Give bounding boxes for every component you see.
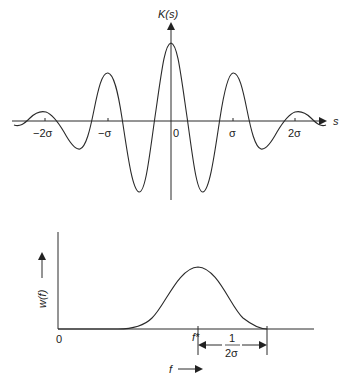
tick-label-minus-2sigma: −2σ — [33, 127, 53, 139]
peak-label: f* — [192, 331, 200, 343]
response-curve — [58, 267, 267, 329]
origin-label: 0 — [56, 333, 62, 345]
width-label-denominator: 2σ — [225, 347, 238, 359]
top-x-label: s — [333, 115, 339, 127]
top-plot: K(s) s −2σ −σ 0 σ 2σ — [12, 8, 339, 200]
tick-label-sigma: σ — [229, 127, 236, 139]
tick-label-minus-sigma: −σ — [98, 127, 111, 139]
tick-label-2sigma: 2σ — [288, 127, 301, 139]
figure: K(s) s −2σ −σ 0 σ 2σ w(f) 0 f* 1 2σ f — [0, 0, 349, 388]
bottom-plot: w(f) 0 f* 1 2σ f — [36, 232, 314, 375]
bottom-y-label: w(f) — [36, 289, 48, 308]
bottom-x-label: f — [169, 363, 173, 375]
tick-label-zero: 0 — [173, 127, 179, 139]
kernel-curve — [14, 43, 326, 192]
top-y-label: K(s) — [158, 8, 179, 20]
width-label-numerator: 1 — [229, 332, 235, 344]
